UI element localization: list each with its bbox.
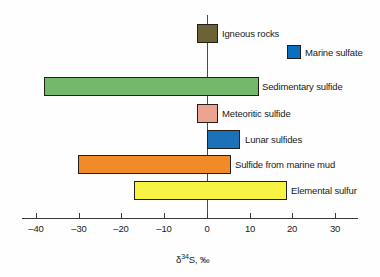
x-axis-tick xyxy=(36,213,37,218)
x-axis-tick xyxy=(207,213,208,218)
bar-label-sedimentary-sulfide: Sedimentary sulfide xyxy=(262,81,343,92)
axis-title-superscript: 34 xyxy=(181,253,189,260)
bar-lunar-sulfides xyxy=(207,130,240,149)
x-axis-tick-label: 0 xyxy=(193,223,221,234)
bar-label-sulfide-from-marine-mud: Sulfide from marine mud xyxy=(235,159,335,170)
x-axis-tick xyxy=(250,213,251,218)
x-axis-tick xyxy=(292,213,293,218)
x-axis-tick-label: –20 xyxy=(107,223,135,234)
bar-sedimentary-sulfide xyxy=(44,77,259,96)
bar-label-igneous-rocks: Igneous rocks xyxy=(222,28,279,39)
chart-figure: Igneous rocks Marine sulfate Sedimentary… xyxy=(0,0,380,277)
x-axis-tick-label: –30 xyxy=(65,223,93,234)
x-axis-tick-label: –40 xyxy=(22,223,50,234)
x-axis-tick-label: 10 xyxy=(236,223,264,234)
legend-swatch-marine-sulfate xyxy=(287,45,301,59)
plot-area: Igneous rocks Marine sulfate Sedimentary… xyxy=(0,0,380,277)
x-axis-tick xyxy=(164,213,165,218)
bar-label-marine-sulfate: Marine sulfate xyxy=(305,47,363,58)
axis-title-element: S, ‰ xyxy=(189,254,210,265)
x-axis-title: δ34S, ‰ xyxy=(176,253,210,265)
x-axis-tick xyxy=(335,213,336,218)
bar-igneous-rocks xyxy=(197,24,218,43)
bar-sulfide-from-marine-mud xyxy=(78,155,231,174)
x-axis-tick-label: –10 xyxy=(150,223,178,234)
x-axis-tick xyxy=(79,213,80,218)
bar-label-lunar-sulfides: Lunar sulfides xyxy=(245,134,302,145)
bar-elemental-sulfur xyxy=(134,181,287,200)
bar-meteoritic-sulfide xyxy=(197,104,218,123)
x-axis-line xyxy=(22,218,358,219)
bar-label-meteoritic-sulfide: Meteoritic sulfide xyxy=(222,108,291,119)
x-axis-tick-label: 30 xyxy=(321,223,349,234)
x-axis-tick xyxy=(121,213,122,218)
bar-label-elemental-sulfur: Elemental sulfur xyxy=(291,185,357,196)
x-axis-tick-label: 20 xyxy=(278,223,306,234)
